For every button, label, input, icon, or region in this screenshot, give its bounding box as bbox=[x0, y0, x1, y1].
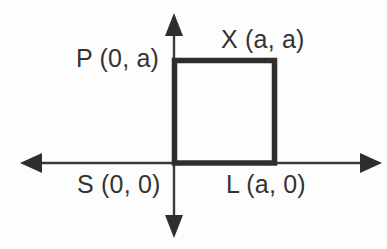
vertex-label-x: X (a, a) bbox=[221, 27, 305, 52]
vertex-label-l: L (a, 0) bbox=[226, 172, 306, 197]
square-shape bbox=[175, 61, 275, 164]
y-axis-top-arrow-icon bbox=[165, 13, 183, 36]
x-axis-right-arrow-icon bbox=[360, 153, 382, 173]
y-axis-bottom-arrow-icon bbox=[165, 215, 183, 238]
vertex-label-s: S (0, 0) bbox=[77, 172, 161, 197]
geometry-figure: P (0, a) X (a, a) S (0, 0) L (a, 0) bbox=[0, 0, 387, 249]
x-axis-left-arrow-icon bbox=[20, 153, 42, 173]
vertex-label-p: P (0, a) bbox=[76, 46, 159, 71]
coordinate-diagram-svg bbox=[0, 0, 387, 249]
